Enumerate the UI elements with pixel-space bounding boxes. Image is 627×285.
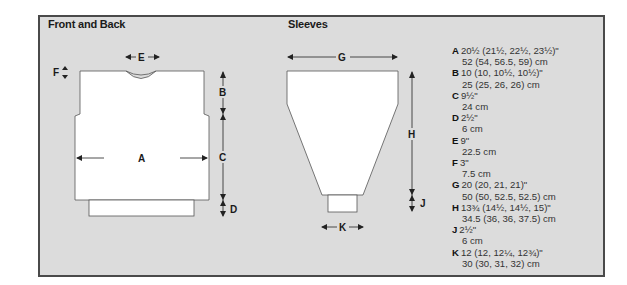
legend-b: B10 (10, 10½, 10½)": [452, 67, 612, 78]
cuff: [328, 195, 357, 212]
svg-text:K: K: [339, 222, 347, 233]
legend-g: G20 (20, 21, 21)": [452, 179, 612, 190]
legend-d: D2½": [452, 112, 612, 123]
legend-a: A20½ (21½, 22½, 23½)": [452, 45, 612, 56]
dimension-b-c-d: B C D: [217, 71, 237, 217]
dimension-k: K: [322, 222, 363, 233]
dimension-e: E: [126, 52, 159, 63]
front-back-title: Front and Back: [48, 18, 125, 30]
legend-j: J2½": [452, 224, 612, 235]
svg-text:H: H: [408, 129, 415, 140]
legend-k: K12 (12, 12¼, 12¾)": [452, 247, 612, 258]
svg-text:J: J: [420, 198, 426, 209]
sleeves-title: Sleeves: [288, 18, 328, 30]
measurement-legend: A20½ (21½, 22½, 23½)" 52 (54, 56.5, 59) …: [452, 45, 612, 269]
svg-text:G: G: [338, 52, 346, 63]
svg-text:E: E: [138, 52, 145, 63]
legend-h: H13¾ (14½, 14½, 15)": [452, 202, 612, 213]
legend-f: F3": [452, 157, 612, 168]
legend-e: E9": [452, 135, 612, 146]
legend-c: C9½": [452, 90, 612, 101]
dimension-f: F: [53, 66, 68, 79]
svg-text:A: A: [138, 153, 145, 164]
svg-text:B: B: [219, 87, 226, 98]
ribbing-band: [89, 200, 194, 216]
svg-text:C: C: [219, 152, 226, 163]
svg-text:D: D: [230, 204, 237, 215]
dimension-h-j: H J: [406, 71, 426, 212]
sleeve-piece: [287, 71, 398, 212]
svg-text:F: F: [53, 67, 59, 78]
dimension-g: G: [288, 52, 397, 63]
front-back-piece: [75, 71, 209, 216]
